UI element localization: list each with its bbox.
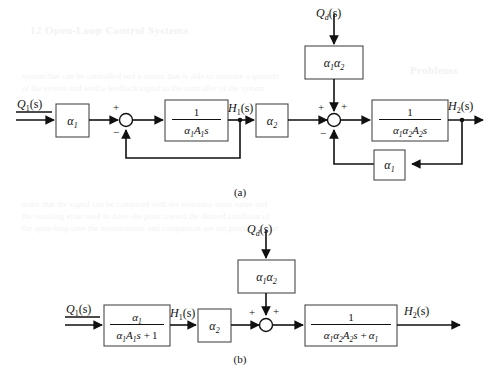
intermediate-label-h1-a: H1(s) [227, 101, 253, 117]
sum2-plus-top-a: + [341, 100, 347, 112]
q1-paren-b: (s) [79, 302, 92, 316]
block-integrator-1-a: 1 α1A1s [165, 100, 228, 141]
lag-den-one-b: 1 [152, 329, 158, 341]
intermediate-label-h1-b: H1(s) [169, 306, 195, 322]
svg-text:Qd(s): Qd(s) [316, 6, 341, 22]
svg-text:H1(s): H1(s) [227, 101, 253, 117]
svg-text:Q1(s): Q1(s) [17, 97, 42, 113]
q1-paren-a: (s) [30, 97, 43, 111]
svg-text:H2(s): H2(s) [447, 99, 473, 115]
h2-paren-a: (s) [461, 99, 474, 113]
sum-plus-left-b: + [249, 306, 255, 318]
caption-b: (b) [234, 353, 247, 366]
lag2-numerator-b: 1 [348, 311, 354, 323]
h1-paren-b: (s) [183, 306, 196, 320]
block-alpha2-gain-b: α2 [198, 309, 231, 342]
dist-alpha2-sub-b: 2 [273, 277, 277, 286]
qd-symbol-b: Q [247, 222, 256, 236]
block-diagram-figure: Q1(s) α1 + − 1 α1A1s [0, 0, 489, 383]
integ2-s-a: s [423, 124, 427, 136]
svg-text:Qd(s): Qd(s) [247, 222, 272, 238]
disturbance-label-a: Qd(s) [316, 6, 341, 22]
lag-den-s-b: s [137, 329, 141, 341]
svg-text:Q1(s): Q1(s) [66, 302, 91, 318]
alpha1-sub-a: 1 [74, 121, 78, 130]
diagram-b: Qd(s) α1α2 Q1(s) α1 α [65, 222, 460, 366]
block-second-order-lag-b: 1 α1α2A2s+α1 [305, 305, 397, 346]
block-disturbance-gain-a: α1α2 [305, 46, 363, 79]
diagram-a: Q1(s) α1 + − 1 α1A1s [16, 6, 483, 199]
h1-paren-a: (s) [241, 101, 254, 115]
output-label-h2-b: H2(s) [403, 304, 429, 320]
qd-paren-a: (s) [329, 6, 342, 20]
summing-junction-1-b: + + [249, 305, 279, 332]
integrator2-numerator-a: 1 [407, 106, 413, 118]
sum2-plus-left-a: + [318, 101, 324, 113]
sum2-minus-a: − [320, 127, 326, 139]
q1-symbol-b: Q [66, 302, 75, 316]
lag2-tail-alpha-sub-b: 1 [375, 335, 379, 344]
block-disturbance-gain-b: α1α2 [238, 260, 295, 293]
lag2-s-b: s [353, 329, 357, 341]
qd-symbol-a: Q [316, 6, 325, 20]
block-alpha2-gain-a: α2 [256, 104, 288, 137]
fb-alpha-sub-a: 1 [391, 165, 395, 174]
disturbance-label-b: Qd(s) [247, 222, 272, 238]
integ1-s-a: s [204, 124, 208, 136]
svg-text:H2(s): H2(s) [403, 304, 429, 320]
sum1-plus-sign-a: + [113, 101, 119, 113]
alpha2-sub-b: 2 [216, 326, 220, 335]
block-integrator-2-a: 1 α1α2A2s [372, 100, 448, 141]
block-first-order-lag-b: α1 α1A1s+1 [104, 305, 170, 346]
svg-text:H1(s): H1(s) [169, 306, 195, 322]
input-label-b: Q1(s) [65, 302, 100, 318]
block-feedback-gain-a: α1 [374, 150, 405, 180]
lag2-plus-b: + [361, 329, 367, 341]
input-label-a: Q1(s) [16, 97, 52, 113]
integrator1-numerator-a: 1 [194, 106, 200, 118]
sum-plus-top-b: + [273, 305, 279, 317]
caption-a: (a) [234, 186, 247, 199]
q1-symbol-a: Q [17, 97, 26, 111]
h2-paren-b: (s) [417, 304, 430, 318]
sum1-minus-sign-a: − [113, 126, 119, 138]
alpha2-sub-a: 2 [273, 121, 277, 130]
block-alpha1-gain-a: α1 [56, 104, 89, 137]
dist-alpha2-sub-a: 2 [340, 63, 344, 72]
output-label-h2-a: H2(s) [447, 99, 473, 115]
lag-den-plus-b: + [144, 329, 150, 341]
